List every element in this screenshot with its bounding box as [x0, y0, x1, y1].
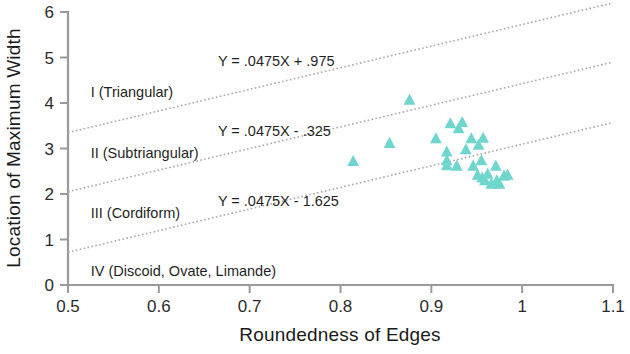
trend-line: [68, 3, 613, 133]
data-point-marker: [384, 137, 396, 148]
chart-canvas: 0123456 0.50.60.70.80.911.1 I (Triangula…: [0, 0, 630, 354]
trend-line: [68, 123, 613, 253]
y-tick-label: 5: [45, 49, 54, 68]
y-tick-label: 1: [45, 231, 54, 250]
x-tick-label: 0.7: [238, 297, 262, 316]
region-labels-group: I (Triangular)II (Subtriangular)III (Cor…: [91, 84, 276, 280]
data-point-marker: [465, 132, 477, 143]
y-tick-label: 2: [45, 185, 54, 204]
x-tick-label: 1.1: [601, 297, 625, 316]
y-axis-title: Location of Maximum Width: [3, 28, 24, 267]
y-tick-label: 0: [45, 276, 54, 295]
data-point-marker: [404, 94, 416, 105]
x-tick-label: 0.9: [420, 297, 444, 316]
x-axis-title: Roundedness of Edges: [239, 324, 441, 345]
data-point-marker: [460, 143, 472, 154]
equation-label: Y = .0475X + .975: [218, 53, 335, 69]
equation-labels-group: Y = .0475X + .975Y = .0475X - .325Y = .0…: [218, 53, 339, 209]
y-tick-label: 4: [45, 94, 54, 113]
data-markers-group: [347, 94, 513, 189]
data-point-marker: [430, 132, 442, 143]
y-tick-label: 6: [45, 3, 54, 22]
scatter-plot-figure: 0123456 0.50.60.70.80.911.1 I (Triangula…: [0, 0, 630, 354]
region-label: I (Triangular): [91, 84, 173, 100]
equation-label: Y = .0475X - .325: [218, 123, 331, 139]
x-tick-label: 1: [517, 297, 526, 316]
data-point-marker: [445, 117, 457, 128]
x-tick-label: 0.8: [329, 297, 353, 316]
y-axis-ticks: 0123456: [45, 3, 68, 295]
data-point-marker: [477, 132, 489, 143]
x-axis-ticks: 0.50.60.70.80.911.1: [56, 285, 625, 316]
equation-label: Y = .0475X - 1.625: [218, 193, 339, 209]
x-tick-label: 0.6: [147, 297, 171, 316]
data-point-marker: [490, 160, 502, 171]
data-point-marker: [475, 154, 487, 165]
region-label: IV (Discoid, Ovate, Limande): [91, 263, 276, 279]
region-label: III (Cordiform): [91, 205, 180, 221]
y-tick-label: 3: [45, 140, 54, 159]
region-label: II (Subtriangular): [91, 145, 199, 161]
trend-line: [68, 62, 613, 192]
data-point-marker: [456, 116, 468, 127]
data-point-marker: [347, 155, 359, 166]
data-point-marker: [451, 160, 463, 171]
x-tick-label: 0.5: [56, 297, 80, 316]
